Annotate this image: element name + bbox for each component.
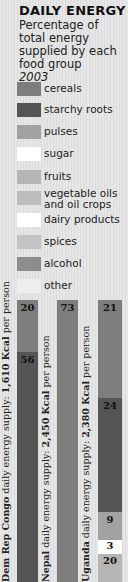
legend-label: starchy roots xyxy=(44,104,113,115)
bar: 73 xyxy=(57,300,78,582)
segment-sugar: 3 xyxy=(98,540,122,554)
segment-starchy-roots: 56 xyxy=(17,352,38,582)
segment-starchy-roots: 24 xyxy=(98,398,122,512)
swatch-sugar xyxy=(17,147,41,161)
energy-supply: 2,380 Kcal xyxy=(80,381,91,438)
legend-label: sugar xyxy=(44,148,74,159)
country-nepal: Nepal daily energy supply: 2,450 Kcal pe… xyxy=(40,300,80,582)
energy-supply: 1,610 Kcal xyxy=(0,336,11,393)
value-label: 24 xyxy=(98,400,122,411)
swatch-starchy-roots xyxy=(17,103,41,117)
value-label: 20 xyxy=(17,302,38,313)
legend-label: dairy products xyxy=(44,214,120,225)
country-dem-rep-congo: Dem Rep Congo daily energy supply: 1,610… xyxy=(0,300,40,582)
legend-label: alcohol xyxy=(44,258,82,269)
label-prefix: daily energy supply: xyxy=(80,438,91,538)
segment-cereals: 20 xyxy=(17,300,38,352)
label-suffix: per person xyxy=(40,335,51,390)
label-prefix: daily energy supply: xyxy=(0,393,11,493)
label-prefix: daily energy supply: xyxy=(40,447,51,547)
energy-supply: 2,450 Kcal xyxy=(40,391,51,448)
infographic-panel: DAILY ENERGY Percentage of total energy … xyxy=(0,0,128,582)
label-suffix: per person xyxy=(80,326,91,381)
swatch-vegetable-oils xyxy=(17,191,41,205)
value-label: 9 xyxy=(98,514,122,525)
swatch-cereals xyxy=(17,82,41,96)
country-name: Nepal xyxy=(40,551,51,582)
country-label: Uganda daily energy supply: 2,380 Kcal p… xyxy=(80,300,96,582)
swatch-other xyxy=(17,279,41,293)
legend-label: other xyxy=(44,280,72,291)
chart-subtitle: Percentage of total energy supplied by e… xyxy=(19,19,125,84)
country-name: Dem Rep Congo xyxy=(0,497,11,582)
segment-cereals: 21 xyxy=(98,300,122,398)
label-suffix: per person xyxy=(0,281,11,336)
value-label: 20 xyxy=(98,555,122,566)
segment-cereals: 73 xyxy=(57,300,78,582)
segment-fruits: 20 xyxy=(98,554,122,582)
swatch-fruits xyxy=(17,170,41,184)
value-label: 56 xyxy=(17,354,38,365)
country-label: Dem Rep Congo daily energy supply: 1,610… xyxy=(0,300,16,582)
country-uganda: Uganda daily energy supply: 2,380 Kcal p… xyxy=(80,300,128,582)
country-name: Uganda xyxy=(80,541,91,582)
country-label: Nepal daily energy supply: 2,450 Kcal pe… xyxy=(40,300,56,582)
swatch-spices xyxy=(17,235,41,249)
bar: 20 56 xyxy=(17,300,38,582)
legend-label: fruits xyxy=(44,171,71,182)
swatch-alcohol xyxy=(17,257,41,271)
stacked-bar-chart: Dem Rep Congo daily energy supply: 1,610… xyxy=(0,300,128,582)
legend-label: spices xyxy=(44,236,77,247)
swatch-dairy-products xyxy=(17,213,41,227)
swatch-pulses xyxy=(17,125,41,139)
legend-label: vegetable oils and oil crops xyxy=(44,188,124,210)
value-label: 3 xyxy=(98,540,122,551)
legend-label: pulses xyxy=(44,126,78,137)
value-label: 73 xyxy=(57,302,78,313)
value-label: 21 xyxy=(98,302,122,313)
legend-label: cereals xyxy=(44,83,82,94)
bar: 21 24 9 3 20 xyxy=(98,300,122,582)
subtitle-text: Percentage of total energy supplied by e… xyxy=(19,18,117,71)
chart-title: DAILY ENERGY xyxy=(19,3,126,18)
